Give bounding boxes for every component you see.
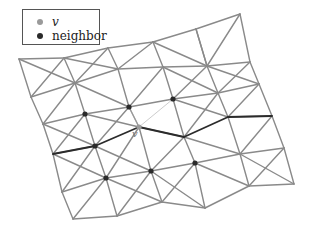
mesh-edge: [207, 14, 240, 66]
mesh-edge: [195, 163, 205, 208]
mesh-edge: [53, 154, 106, 178]
neighbor-vertex: [92, 143, 97, 148]
mesh-edge: [228, 84, 259, 117]
path-edge: [139, 127, 184, 137]
mesh-edge: [117, 202, 162, 216]
thin-edge: [139, 99, 173, 127]
mesh-edge: [240, 14, 250, 62]
mesh-edge: [184, 137, 240, 154]
mesh-edge: [64, 58, 118, 69]
thin-edge: [129, 107, 139, 127]
neighbor-vertex: [82, 111, 87, 116]
legend: v neighbor: [22, 9, 100, 45]
mesh-edge: [31, 97, 43, 124]
mesh-edge: [73, 216, 117, 219]
legend-label-neighbor: neighbor: [52, 29, 107, 43]
mesh-edge: [85, 114, 95, 146]
mesh-edge: [196, 29, 207, 66]
mesh-edge: [207, 66, 259, 84]
mesh-edge: [207, 62, 250, 66]
mesh-edge: [108, 48, 118, 69]
neighbor-vertex: [170, 96, 175, 101]
neighbor-vertex: [103, 175, 108, 180]
path-edge: [184, 117, 228, 137]
mesh-edge: [19, 58, 64, 59]
mesh-edge: [173, 99, 228, 117]
mesh-edge: [62, 146, 95, 192]
mesh-edge: [19, 59, 31, 97]
mesh-edge: [240, 116, 272, 154]
mesh-edge: [73, 178, 106, 219]
mesh-edge: [259, 84, 272, 116]
mesh-edge: [228, 117, 240, 154]
mesh-edge: [173, 99, 184, 137]
mesh-edge: [95, 107, 129, 146]
mesh-edge: [205, 186, 249, 208]
mesh-edge: [62, 178, 106, 192]
mesh-edge: [62, 192, 73, 219]
mesh-edge: [218, 93, 228, 117]
mesh-edge: [272, 116, 284, 148]
mesh-edge: [195, 154, 240, 163]
mesh-edge: [249, 184, 294, 186]
mesh-edge: [106, 178, 117, 216]
mesh-edge: [240, 148, 284, 154]
mesh-edge: [129, 67, 163, 107]
mesh-edge: [139, 127, 151, 171]
mesh-edge: [184, 137, 195, 163]
mesh-edge: [85, 114, 139, 127]
legend-item-v: v: [23, 15, 59, 29]
neighbor-vertex: [126, 104, 131, 109]
mesh-edge: [43, 124, 95, 146]
mesh-edge: [240, 154, 294, 184]
mesh-edge: [249, 148, 284, 186]
mesh-edge: [106, 178, 162, 202]
mesh-edge: [173, 66, 207, 99]
legend-dot-v-icon: [37, 19, 43, 25]
legend-label-v: v: [52, 15, 59, 29]
legend-dot-neighbor-icon: [37, 33, 43, 39]
mesh-edge: [184, 93, 218, 137]
mesh-edge: [53, 154, 62, 192]
neighbor-vertex: [192, 160, 197, 165]
mesh-edge: [196, 14, 240, 29]
mesh-edge: [163, 66, 207, 67]
mesh-edge: [173, 93, 218, 99]
mesh-edge: [195, 163, 249, 186]
mesh-edge: [64, 48, 108, 58]
neighbor-vertex: [148, 168, 153, 173]
mesh-edge: [75, 83, 85, 114]
mesh-edge: [218, 84, 259, 93]
mesh-edge: [85, 107, 129, 114]
mesh-edge: [163, 67, 173, 99]
vertex-v-label: v: [132, 128, 138, 139]
legend-item-neighbor: neighbor: [23, 29, 107, 43]
mesh-edge: [118, 67, 163, 69]
mesh-edge: [117, 171, 151, 216]
mesh-edge: [75, 83, 129, 107]
mesh-edge: [106, 171, 151, 178]
mesh-edge: [153, 29, 196, 42]
mesh-edge: [43, 124, 53, 154]
mesh-edge: [218, 62, 250, 93]
mesh-edge: [95, 146, 151, 171]
mesh-edge: [118, 69, 129, 107]
path-edge: [228, 116, 272, 117]
